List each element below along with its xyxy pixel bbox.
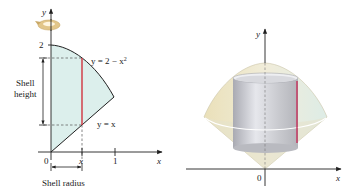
cylinder-bottom-ellipse bbox=[233, 143, 298, 153]
right-y-axis-label: y bbox=[255, 29, 260, 39]
right-x-axis-label: x bbox=[335, 173, 340, 183]
left-origin-label: 0 bbox=[44, 156, 49, 166]
left-x-tick-1-label: 1 bbox=[113, 156, 118, 166]
diagram-canvas: y 2 0 x 1 x y = 2 − x2 y = x Shell heigh… bbox=[0, 0, 352, 196]
curve-top-label: y = 2 − x2 bbox=[91, 56, 127, 66]
left-y-tick-2-label: 2 bbox=[39, 40, 44, 50]
cylindrical-shell bbox=[233, 78, 298, 148]
cylinder-top-inner bbox=[236, 76, 296, 83]
rotation-arrow-icon bbox=[35, 19, 60, 31]
right-origin-label: 0 bbox=[257, 173, 262, 183]
left-figure: y 2 0 x 1 x y = 2 − x2 y = x Shell heigh… bbox=[14, 7, 162, 188]
shell-radius-label: Shell radius bbox=[42, 178, 85, 188]
curve-bottom-label: y = x bbox=[97, 119, 116, 129]
right-figure: y 0 x bbox=[186, 29, 341, 186]
left-x-tick-x-label: x bbox=[78, 156, 83, 166]
left-y-axis-label: y bbox=[41, 7, 46, 17]
left-x-axis-label: x bbox=[156, 156, 161, 166]
shell-height-label-line2: height bbox=[14, 89, 37, 99]
shell-height-label-line1: Shell bbox=[16, 78, 35, 88]
